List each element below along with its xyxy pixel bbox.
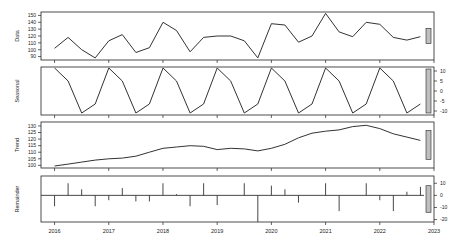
panel-data: Data90100110120130140150 bbox=[14, 12, 434, 63]
y-axis-label: Data bbox=[14, 29, 20, 42]
y-tick-label: 130 bbox=[28, 123, 37, 129]
y-tick-label: 90 bbox=[30, 53, 36, 59]
x-tick-label: 2020 bbox=[265, 228, 277, 234]
y-tick-label: 120 bbox=[28, 33, 37, 39]
y-axis-left: 90100110120130140150 bbox=[28, 12, 41, 59]
x-tick-label: 2016 bbox=[48, 228, 60, 234]
range-bar bbox=[426, 69, 431, 113]
y-tick-label: 100 bbox=[28, 162, 37, 168]
x-tick-label: 2018 bbox=[157, 228, 169, 234]
y-tick-label: 10 bbox=[440, 180, 446, 186]
panel-trend: Trend100105110115120125130 bbox=[14, 122, 434, 171]
y-tick-label: 0 bbox=[440, 88, 443, 94]
range-bar bbox=[426, 28, 431, 43]
y-tick-label: -10 bbox=[440, 204, 447, 210]
range-bar bbox=[426, 186, 431, 213]
y-tick-label: 100 bbox=[28, 47, 37, 53]
y-tick-label: -10 bbox=[440, 108, 447, 114]
y-tick-label: 105 bbox=[28, 156, 37, 162]
y-tick-label: 110 bbox=[28, 149, 36, 155]
x-tick-label: 2021 bbox=[319, 228, 331, 234]
y-tick-label: 115 bbox=[28, 142, 36, 148]
y-axis-right: -20-10010 bbox=[434, 180, 447, 222]
x-tick-label: 2019 bbox=[211, 228, 223, 234]
y-tick-label: 120 bbox=[28, 136, 37, 142]
y-axis-label: Trend bbox=[14, 138, 20, 152]
series-line bbox=[55, 68, 421, 113]
y-tick-label: -5 bbox=[440, 98, 445, 104]
y-axis-right: -10-50510 bbox=[434, 68, 447, 114]
range-bar bbox=[426, 131, 431, 160]
y-tick-label: 110 bbox=[28, 40, 36, 46]
y-tick-label: 5 bbox=[440, 78, 443, 84]
y-tick-label: 125 bbox=[28, 129, 37, 135]
panel-seasonal: Seasonal-10-50510 bbox=[14, 67, 447, 118]
x-tick-label: 2017 bbox=[103, 228, 115, 234]
y-axis-left: 100105110115120125130 bbox=[28, 123, 41, 168]
y-axis-label: Seasonal bbox=[14, 80, 20, 103]
x-axis: 20162017201820192020202120222023 bbox=[48, 228, 440, 234]
y-tick-label: -20 bbox=[440, 216, 447, 222]
y-tick-label: 130 bbox=[28, 26, 37, 32]
y-tick-label: 0 bbox=[440, 192, 443, 198]
panels: Data90100110120130140150Seasonal-10-5051… bbox=[14, 12, 447, 225]
y-tick-label: 150 bbox=[28, 12, 37, 18]
panel-frame bbox=[41, 122, 434, 168]
stl-decomposition-chart: Data90100110120130140150Seasonal-10-5051… bbox=[0, 0, 461, 247]
panel-remainder: Remainder-20-10010 bbox=[14, 176, 447, 225]
panel-frame bbox=[41, 12, 434, 60]
y-tick-label: 140 bbox=[28, 19, 37, 25]
series-line bbox=[55, 125, 421, 166]
panel-frame bbox=[41, 176, 434, 222]
y-tick-label: 10 bbox=[440, 68, 446, 74]
x-tick-label: 2023 bbox=[428, 228, 440, 234]
series-line bbox=[55, 13, 421, 58]
y-axis-label: Remainder bbox=[14, 185, 20, 212]
x-tick-label: 2022 bbox=[374, 228, 386, 234]
